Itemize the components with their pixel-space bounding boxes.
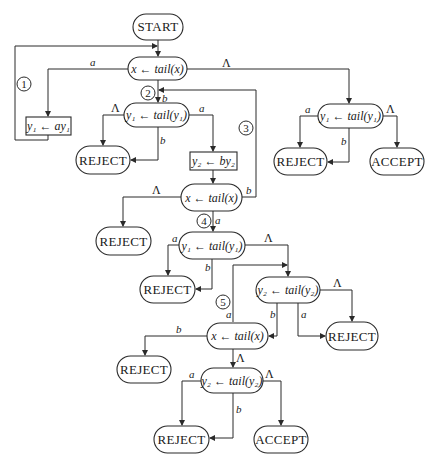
- nodes: START x ← tail(x) y₁ ← ay₁ y₁ ← tail(y₁)…: [26, 14, 424, 453]
- svg-text:REJECT: REJECT: [143, 282, 191, 297]
- edge-label: Λ: [265, 367, 274, 381]
- edge-label: Λ: [264, 231, 273, 245]
- svg-text:REJECT: REJECT: [79, 153, 127, 168]
- node-y1-tail-2: y₁ ← tail(y₁): [179, 232, 245, 259]
- edge-y2b-b: [210, 393, 233, 438]
- node-start: START: [133, 14, 183, 40]
- loop-marker-1: 1: [17, 77, 31, 91]
- edge-y1b-a: [168, 245, 179, 275]
- svg-text:ACCEPT: ACCEPT: [255, 432, 307, 447]
- edge-x1-lambda: [187, 69, 349, 103]
- edge-label: b: [270, 308, 276, 320]
- edge-y1a-lambda: [103, 115, 124, 145]
- edge-y1r-a: [300, 116, 318, 147]
- edge-y1b-lambda: [245, 245, 288, 276]
- edge-label: a: [199, 102, 205, 114]
- svg-text:REJECT: REJECT: [157, 432, 205, 447]
- edge-y1r-lambda: [383, 116, 397, 147]
- svg-text:2: 2: [145, 87, 151, 99]
- node-x-tail-2: x ← tail(x): [181, 184, 242, 211]
- edge-label: b: [162, 92, 168, 104]
- edge-label: b: [236, 403, 242, 415]
- svg-text:y₂ ← tail(y₂): y₂ ← tail(y₂): [257, 283, 319, 297]
- edge-x3-b: [145, 336, 207, 355]
- edge-label: a: [189, 368, 195, 380]
- node-reject-5: REJECT: [117, 356, 171, 383]
- edge-y2b-lambda: [262, 381, 281, 425]
- edge-label: a: [226, 308, 232, 320]
- node-y1-prepend-a: y₁ ← ay₁: [26, 117, 71, 135]
- node-y1-tail-right: y₁ ← tail(y₁): [318, 104, 383, 128]
- edge-label: Λ: [333, 276, 342, 290]
- edge-label: b: [341, 135, 347, 147]
- edge-label: a: [172, 232, 178, 244]
- edge-y2a-lambda: [320, 290, 352, 321]
- svg-text:REJECT: REJECT: [276, 154, 324, 169]
- edge-label: b: [246, 184, 252, 196]
- node-y1-tail-1: y₁ ← tail(y₁): [124, 103, 189, 127]
- node-accept-bottom: ACCEPT: [254, 426, 308, 453]
- edge-y2b-a: [182, 381, 201, 425]
- svg-text:START: START: [138, 19, 179, 34]
- edge-y1a-a: [189, 115, 213, 151]
- svg-text:5: 5: [220, 296, 226, 308]
- svg-text:4: 4: [201, 215, 207, 227]
- edge-label: a: [215, 214, 221, 226]
- svg-text:y₁ ← tail(y₁): y₁ ← tail(y₁): [125, 108, 187, 122]
- loop-marker-4: 4: [197, 214, 211, 228]
- edge-y1a-b: [131, 127, 158, 160]
- node-reject-2: REJECT: [96, 227, 151, 255]
- svg-text:ACCEPT: ACCEPT: [371, 154, 423, 169]
- svg-text:REJECT: REJECT: [328, 329, 376, 344]
- node-reject-6: REJECT: [154, 426, 209, 453]
- edge-label: Λ: [386, 102, 395, 116]
- edge-label: Λ: [236, 351, 245, 365]
- svg-text:x ← tail(x): x ← tail(x): [184, 191, 238, 205]
- edge-label: a: [90, 56, 96, 68]
- node-accept-right: ACCEPT: [370, 148, 424, 175]
- node-x-tail-1: x ← tail(x): [128, 57, 187, 80]
- loop-marker-3: 3: [239, 121, 253, 135]
- edge-label: Λ: [222, 56, 231, 70]
- svg-text:y₁ ← ay₁: y₁ ← ay₁: [26, 119, 70, 133]
- loop-marker-5: 5: [216, 295, 230, 309]
- svg-text:1: 1: [21, 78, 27, 90]
- node-reject-1: REJECT: [76, 146, 130, 174]
- node-y2-tail-2: y₂ ← tail(y₂): [201, 368, 264, 393]
- svg-text:x ← tail(x): x ← tail(x): [210, 329, 264, 343]
- edge-label: Λ: [111, 101, 120, 115]
- svg-text:y₂ ← by₂: y₂ ← by₂: [191, 154, 235, 168]
- edge-label: b: [176, 323, 182, 335]
- svg-text:y₁ ← tail(y₁): y₁ ← tail(y₁): [319, 109, 381, 123]
- svg-text:y₂ ← tail(y₂): y₂ ← tail(y₂): [201, 374, 263, 388]
- svg-text:y₁ ← tail(y₁): y₁ ← tail(y₁): [181, 239, 243, 253]
- node-y2-prepend-b: y₂ ← by₂: [190, 152, 237, 170]
- svg-text:x ← tail(x): x ← tail(x): [130, 62, 184, 76]
- svg-text:REJECT: REJECT: [120, 362, 168, 377]
- edge-label: Λ: [152, 183, 161, 197]
- node-x-tail-3: x ← tail(x): [207, 323, 268, 349]
- node-y2-tail-1: y₂ ← tail(y₂): [256, 277, 320, 303]
- node-reject-right: REJECT: [274, 148, 327, 175]
- edge-label: a: [301, 308, 307, 320]
- edge-label: b: [160, 134, 166, 146]
- svg-text:REJECT: REJECT: [99, 234, 147, 249]
- node-reject-3: REJECT: [140, 276, 195, 303]
- edge-label: b: [205, 261, 211, 273]
- svg-text:3: 3: [243, 122, 249, 134]
- node-reject-4: REJECT: [326, 322, 378, 350]
- loop-marker-2: 2: [141, 86, 155, 100]
- edge-x2-lambda: [123, 197, 181, 226]
- flowchart-diagram: a b Λ Λ b a a b Λ Λ b a a b Λ b a Λ a b …: [0, 0, 430, 457]
- edge-label: a: [305, 103, 311, 115]
